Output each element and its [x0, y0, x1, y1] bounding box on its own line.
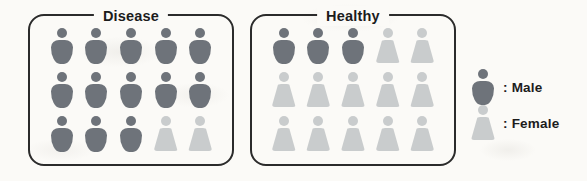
male-person-icon [153, 28, 179, 66]
male-person-icon [83, 116, 109, 154]
person-body-icon [471, 117, 495, 140]
person-body-icon [307, 40, 329, 64]
person-head-icon [279, 28, 289, 38]
people-grid-disease [30, 16, 232, 164]
person-body-icon [472, 81, 494, 105]
person-body-icon [51, 40, 73, 64]
person-body-icon [51, 84, 73, 108]
male-person-icon [118, 116, 144, 154]
person-head-icon [57, 28, 67, 38]
people-row [40, 113, 222, 157]
legend-item-female: : Female [470, 105, 585, 141]
group-box-disease: Disease [28, 14, 234, 166]
person-head-icon [348, 28, 358, 38]
female-person-icon [271, 116, 297, 154]
person-body-icon [306, 128, 330, 151]
person-body-icon [376, 84, 400, 107]
person-body-icon [410, 128, 434, 151]
person-head-icon [57, 116, 67, 126]
person-body-icon [155, 84, 177, 108]
person-head-icon [195, 116, 205, 126]
person-body-icon [272, 128, 296, 151]
pictogram-figure: Disease [0, 0, 587, 181]
person-body-icon [51, 128, 73, 152]
person-body-icon [273, 40, 295, 64]
female-person-icon [187, 116, 213, 154]
male-person-icon [83, 72, 109, 110]
person-body-icon [342, 40, 364, 64]
female-person-icon [375, 28, 401, 66]
person-head-icon [126, 72, 136, 82]
person-body-icon [85, 128, 107, 152]
people-row [262, 113, 444, 157]
person-body-icon [189, 40, 211, 64]
male-person-icon [49, 116, 75, 154]
male-person-icon [118, 28, 144, 66]
people-row [262, 69, 444, 113]
person-head-icon [57, 72, 67, 82]
male-person-icon [118, 72, 144, 110]
person-body-icon [120, 128, 142, 152]
person-body-icon [85, 40, 107, 64]
person-body-icon [154, 128, 178, 151]
person-body-icon [188, 128, 212, 151]
female-person-icon [340, 116, 366, 154]
male-person-icon [187, 28, 213, 66]
person-body-icon [410, 40, 434, 63]
person-head-icon [348, 72, 358, 82]
person-body-icon [272, 84, 296, 107]
person-head-icon [313, 116, 323, 126]
person-body-icon [376, 128, 400, 151]
person-head-icon [126, 28, 136, 38]
person-head-icon [348, 116, 358, 126]
people-row [40, 25, 222, 69]
person-body-icon [85, 84, 107, 108]
female-person-icon [340, 72, 366, 110]
female-person-icon [375, 116, 401, 154]
male-person-icon [83, 28, 109, 66]
person-body-icon [341, 84, 365, 107]
person-head-icon [478, 69, 488, 79]
person-head-icon [383, 116, 393, 126]
person-body-icon [376, 40, 400, 63]
female-person-icon [409, 72, 435, 110]
female-person-icon [153, 116, 179, 154]
male-person-icon [187, 72, 213, 110]
person-body-icon [155, 40, 177, 64]
person-head-icon [313, 28, 323, 38]
person-body-icon [306, 84, 330, 107]
people-row [40, 69, 222, 113]
group-box-healthy: Healthy [250, 14, 456, 166]
male-person-icon [305, 28, 331, 66]
female-person-icon [470, 105, 496, 141]
male-person-icon [49, 28, 75, 66]
person-head-icon [91, 28, 101, 38]
female-person-icon [409, 116, 435, 154]
legend: : Male : Female [470, 69, 585, 141]
person-head-icon [313, 72, 323, 82]
legend-item-male: : Male [470, 69, 585, 105]
legend-label-female: : Female [503, 116, 559, 131]
people-row [262, 25, 444, 69]
person-head-icon [417, 28, 427, 38]
person-head-icon [161, 28, 171, 38]
female-person-icon [409, 28, 435, 66]
person-head-icon [126, 116, 136, 126]
person-body-icon [120, 84, 142, 108]
person-head-icon [91, 116, 101, 126]
person-body-icon [120, 40, 142, 64]
person-head-icon [383, 28, 393, 38]
person-head-icon [417, 116, 427, 126]
male-person-icon [470, 69, 496, 105]
female-person-icon [305, 116, 331, 154]
person-head-icon [161, 72, 171, 82]
person-head-icon [195, 72, 205, 82]
female-person-icon [375, 72, 401, 110]
male-person-icon [271, 28, 297, 66]
male-person-icon [49, 72, 75, 110]
male-person-icon [153, 72, 179, 110]
female-person-icon [305, 72, 331, 110]
female-person-icon [271, 72, 297, 110]
people-grid-healthy [252, 16, 454, 164]
person-head-icon [478, 105, 488, 115]
